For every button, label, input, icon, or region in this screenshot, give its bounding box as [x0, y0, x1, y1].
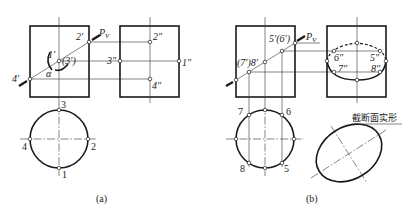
cutting-plane-mark — [19, 81, 27, 86]
label-3: 3 — [61, 99, 66, 110]
section-true-shape: 截断面实形 — [306, 112, 402, 194]
caption-b: (b) — [306, 193, 318, 205]
label-1-prime: 1′ — [48, 49, 56, 60]
label-2-prime: 2′ — [76, 31, 84, 42]
label-7-8-prime: (7′)8′ — [237, 57, 259, 69]
figure-b-side-view: 6″ 5″ 7″ 8″ — [325, 17, 388, 103]
label-3-double-prime: 3″ — [106, 55, 117, 66]
label-5-6-prime: 5′(6′) — [269, 33, 291, 45]
angle-alpha: α — [46, 68, 52, 79]
label-6-double-prime: 6″ — [334, 52, 344, 63]
figure-b-top-view: 7 6 8 5 — [226, 103, 304, 176]
cutting-plane-mark — [297, 36, 305, 41]
label-5: 5 — [284, 163, 289, 174]
label-2: 2 — [91, 141, 96, 152]
figure-a-side-view: 2″ 3″ 1″ 4″ — [106, 17, 192, 103]
figure-a: 4′ 1′ (3′) 2′ α PV 2″ 3″ 1″ 4″ — [12, 17, 192, 205]
section-label: 截断面实形 — [352, 112, 397, 123]
label-8: 8 — [240, 163, 245, 174]
figure-b: (7′)8′ 5′(6′) PV 6″ 5″ 7″ 8″ — [226, 17, 402, 205]
cylinder-section-diagram: 4′ 1′ (3′) 2′ α PV 2″ 3″ 1″ 4″ — [0, 0, 420, 219]
label-6: 6 — [286, 106, 291, 117]
label-8-double-prime: 8″ — [371, 63, 381, 74]
caption-a: (a) — [96, 193, 107, 205]
plane-label-pv: PV — [305, 31, 317, 44]
label-4: 4 — [22, 141, 27, 152]
cutting-plane-mark — [226, 82, 233, 86]
figure-a-top-view: 3 2 1 4 — [20, 99, 96, 180]
label-7: 7 — [238, 106, 243, 117]
label-3-prime: (3′) — [62, 55, 77, 67]
label-7-double-prime: 7″ — [338, 63, 348, 74]
figure-a-front-view: 4′ 1′ (3′) 2′ α PV — [12, 17, 150, 103]
label-2-double-prime: 2″ — [153, 31, 163, 42]
label-1: 1 — [62, 169, 67, 180]
label-4-prime: 4′ — [12, 73, 20, 84]
label-4-double-prime: 4″ — [152, 80, 162, 91]
label-5-double-prime: 5″ — [370, 52, 380, 63]
plane-label-pv: PV — [98, 27, 110, 40]
label-1-double-prime: 1″ — [182, 57, 192, 68]
